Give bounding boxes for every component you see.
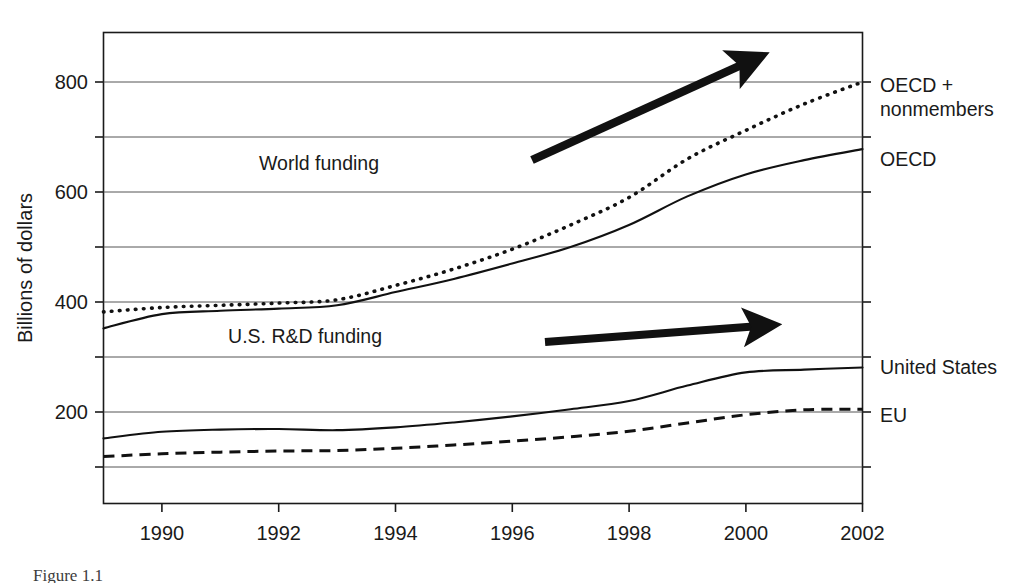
x-tick-label-1998: 1998: [607, 522, 652, 544]
figure-caption: Figure 1.1: [33, 566, 103, 583]
series-line-oecd-plus-nonmembers: [104, 82, 863, 312]
annotation-label-world-funding: World funding: [259, 152, 379, 174]
series-line-united-states: [104, 367, 863, 438]
series-paths: [104, 82, 863, 457]
y-axis-title: Billions of dollars: [14, 193, 36, 343]
series-label-oecd-plus-nonmembers-line2: nonmembers: [880, 98, 994, 120]
x-tick-label-2002: 2002: [840, 522, 885, 544]
series-label-oecd: OECD: [880, 148, 936, 170]
x-tick-label-1990: 1990: [140, 522, 185, 544]
x-axis-ticks: [162, 504, 863, 513]
annotation-arrow-world-funding: [532, 62, 748, 160]
x-tick-label-2000: 2000: [724, 522, 769, 544]
y-axis-ticks: [95, 82, 104, 467]
right-axis-ticks: [863, 82, 872, 467]
y-tick-label-600: 600: [55, 181, 88, 203]
series-label-united-states: United States: [880, 356, 997, 378]
x-tick-label-1992: 1992: [256, 522, 301, 544]
figure-container: 800 600 400 200 Billions of dollars 1990…: [0, 0, 1011, 583]
y-tick-label-400: 400: [55, 291, 88, 313]
x-tick-label-1996: 1996: [490, 522, 535, 544]
series-line-eu: [104, 409, 863, 456]
x-tick-label-1994: 1994: [373, 522, 418, 544]
line-chart: 800 600 400 200 Billions of dollars 1990…: [0, 0, 1011, 583]
y-gridlines: [104, 82, 863, 467]
y-tick-label-800: 800: [55, 71, 88, 93]
y-tick-label-200: 200: [55, 401, 88, 423]
series-label-eu: EU: [880, 404, 907, 426]
annotation-arrow-us-rd-funding: [545, 326, 760, 342]
annotation-label-us-rd-funding: U.S. R&D funding: [228, 325, 382, 347]
plot-frame: [104, 33, 863, 504]
series-label-oecd-plus-nonmembers-line1: OECD +: [880, 74, 953, 96]
